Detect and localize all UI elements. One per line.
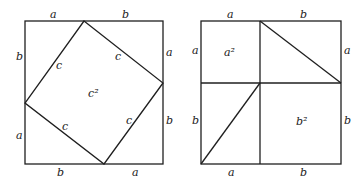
label-left-bottom-a: a (132, 166, 139, 179)
label-left-top-b: b (122, 8, 129, 21)
diagonal-top-right (260, 21, 341, 83)
label-right-top-a: a (227, 8, 234, 21)
label-right-bottom-b: b (300, 166, 307, 179)
label-a-squared: a² (224, 46, 235, 59)
right-figure: a b a b a b a b a² b² (192, 8, 351, 179)
label-left-right-a: a (166, 46, 173, 59)
right-outer-square (201, 21, 341, 164)
label-left-right-b: b (166, 114, 173, 127)
label-right-left-b: b (192, 114, 199, 127)
label-left-left-a: a (16, 129, 23, 142)
label-hyp-c-4: c (126, 114, 132, 127)
label-left-bottom-b: b (57, 166, 64, 179)
diagonal-bottom-left (201, 83, 260, 164)
label-left-top-a: a (50, 8, 57, 21)
label-right-bottom-a: a (228, 166, 235, 179)
left-figure: a b a b b a b a c c c c c² (16, 8, 173, 179)
label-right-left-a: a (192, 44, 199, 57)
label-b-squared: b² (296, 115, 307, 128)
label-c-squared: c² (88, 87, 99, 100)
label-hyp-c-3: c (62, 120, 68, 133)
label-hyp-c-2: c (115, 50, 121, 63)
label-right-top-b: b (300, 8, 307, 21)
label-right-right-b: b (344, 114, 351, 127)
label-left-left-b: b (16, 50, 23, 63)
label-hyp-c-1: c (56, 59, 62, 72)
pythagorean-diagram: a b a b b a b a c c c c c² a b a b a b a… (0, 0, 363, 181)
label-right-right-a: a (344, 44, 351, 57)
